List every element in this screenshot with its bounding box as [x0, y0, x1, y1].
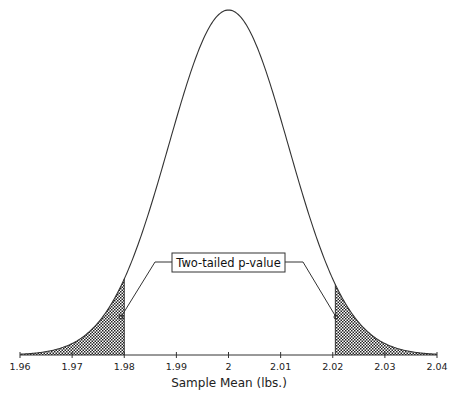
x-tick-label: 2.04: [426, 361, 447, 372]
x-tick-label: 2.02: [322, 361, 343, 372]
x-tick-label: 1.98: [114, 361, 135, 372]
x-tick-label: 1.97: [62, 361, 83, 372]
x-axis-title: Sample Mean (lbs.): [171, 376, 287, 390]
x-tick-label: 1.99: [166, 361, 187, 372]
x-tick-label: 1.96: [9, 361, 30, 372]
chart-canvas: 1.961.971.981.9922.012.022.032.04 Sample…: [0, 0, 460, 398]
x-tick-label: 2.01: [270, 361, 291, 372]
x-tick-label: 2: [225, 361, 231, 372]
normal-curve: [20, 10, 437, 354]
callout-label: Two-tailed p-value: [175, 256, 280, 270]
x-tick-label: 2.03: [374, 361, 395, 372]
callout: Two-tailed p-value: [119, 253, 338, 319]
